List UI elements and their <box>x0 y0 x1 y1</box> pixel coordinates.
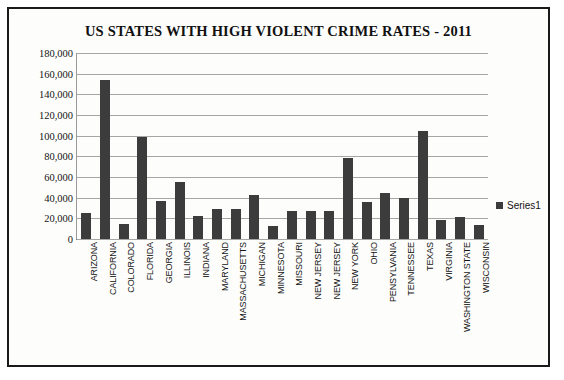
y-axis: 180,000160,000140,000120,000100,00080,00… <box>15 47 73 239</box>
x-tick-label: WASHINGTON STATE <box>462 242 472 332</box>
bar[interactable] <box>380 193 390 240</box>
chart-frame: US STATES WITH HIGH VIOLENT CRIME RATES … <box>7 7 550 367</box>
bar[interactable] <box>324 211 334 239</box>
y-tick-label: 80,000 <box>15 151 73 162</box>
x-axis: ARIZONACALIFORNIACOLORADOFLORIDAGEORGIAI… <box>76 242 487 362</box>
bar[interactable] <box>156 201 166 239</box>
x-tick-label: MINNESOTA <box>276 242 286 294</box>
bar[interactable] <box>100 80 110 239</box>
bar[interactable] <box>306 211 316 239</box>
bar[interactable] <box>268 226 278 239</box>
x-tick-label: TENNESSEE <box>406 242 416 296</box>
x-tick-label: NEW YORK <box>350 242 360 290</box>
x-tick-label: NEW JERSEY <box>332 242 342 300</box>
y-tick-label: 140,000 <box>15 89 73 100</box>
x-tick-label: FLORIDA <box>145 242 155 280</box>
plot-wrapper: 180,000160,000140,000120,000100,00080,00… <box>9 9 548 365</box>
x-tick-label: PENSYLVANIA <box>388 242 398 302</box>
x-tick-label: GEORGIA <box>164 242 174 283</box>
bar-series <box>77 53 488 239</box>
x-tick-label: CALIFORNIA <box>108 242 118 295</box>
bar[interactable] <box>137 137 147 239</box>
bar[interactable] <box>119 224 129 240</box>
bar[interactable] <box>455 217 465 239</box>
bar[interactable] <box>212 209 222 239</box>
legend-swatch-series1 <box>496 202 503 209</box>
y-tick-label: 20,000 <box>15 213 73 224</box>
legend-label-series1: Series1 <box>507 200 541 211</box>
x-tick-label: MARYLAND <box>220 242 230 291</box>
y-tick-label: 60,000 <box>15 172 73 183</box>
bar[interactable] <box>399 198 409 239</box>
gridline <box>77 239 488 240</box>
x-tick-label: ARIZONA <box>89 242 99 281</box>
bar[interactable] <box>474 225 484 239</box>
y-tick-label: 40,000 <box>15 192 73 203</box>
x-tick-label: MISSOURI <box>294 242 304 286</box>
x-tick-label: VIRGINIA <box>444 242 454 281</box>
bar[interactable] <box>81 213 91 239</box>
x-tick-label: INDIANA <box>201 242 211 278</box>
x-tick-label: MICHIGAN <box>257 242 267 286</box>
y-tick-label: 100,000 <box>15 130 73 141</box>
x-tick-label: COLORADO <box>126 242 136 293</box>
bar[interactable] <box>436 220 446 239</box>
y-tick-label: 180,000 <box>15 48 73 59</box>
y-tick-label: 160,000 <box>15 68 73 79</box>
bar[interactable] <box>343 158 353 239</box>
bar[interactable] <box>418 131 428 240</box>
x-tick-label: TEXAS <box>425 242 435 271</box>
bar[interactable] <box>231 209 241 239</box>
bar[interactable] <box>249 195 259 239</box>
legend: Series1 <box>496 200 541 211</box>
bar[interactable] <box>175 182 185 239</box>
x-tick-label: ILLINOIS <box>182 242 192 278</box>
bar[interactable] <box>287 211 297 239</box>
x-tick-label: WISCONSIN <box>481 242 491 293</box>
bar[interactable] <box>362 202 372 239</box>
x-tick-label: OHIO <box>369 242 379 265</box>
x-tick-label: NEW JERSEY <box>313 242 323 300</box>
plot-area <box>76 53 488 240</box>
bar[interactable] <box>193 216 203 239</box>
x-tick-label: MASSACHUSETTS <box>238 242 248 321</box>
y-tick-label: 120,000 <box>15 110 73 121</box>
y-tick-label: 0 <box>15 234 73 245</box>
